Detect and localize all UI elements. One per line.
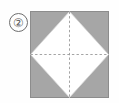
origami-step-diagram: ② [0,0,119,103]
step-number-badge: ② [9,13,28,32]
paper-figure [30,11,109,98]
step-number-label: ② [13,16,24,28]
paper-figure-svg [30,11,109,98]
